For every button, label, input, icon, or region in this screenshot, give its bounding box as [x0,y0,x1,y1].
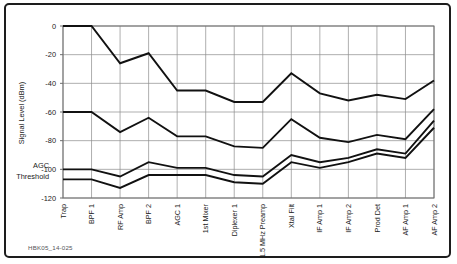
agc-threshold-label-line1: AGC [33,161,50,170]
grid-lines [63,26,434,198]
x-category-label: Prod Det [373,204,382,232]
signal-level-line-chart: 0-20-40-60-80-100-120 TrapBPF 1RF AmpBPF… [6,5,453,260]
data-series-line [63,128,434,188]
y-tick-label: -60 [45,108,56,117]
chart-area: 0-20-40-60-80-100-120 TrapBPF 1RF AmpBPF… [6,5,453,260]
x-category-label: 1st Mixer [201,203,210,233]
y-tick-label: -20 [45,50,56,59]
figure-caption: HBK05_14-025 [28,244,73,251]
x-category-label: Xtal Filt [287,204,296,228]
x-category-label: 1.5 MHz Preamp [258,204,267,258]
x-category-label: AF Amp 1 [401,204,410,236]
y-tick-label: -120 [41,194,56,203]
y-tick-label: -80 [45,136,56,145]
data-series-line [63,26,434,102]
y-axis-title: Signal Level (dBm) [17,82,26,144]
data-series-lines [63,26,434,188]
x-category-label: Diplexer 1 [230,204,239,236]
x-category-label: Trap [59,204,68,219]
x-category-label: BPF 1 [87,204,96,224]
data-series-line [63,121,434,177]
x-category-label: IF Amp 2 [344,204,353,233]
x-axis-category-labels: TrapBPF 1RF AmpBPF 2AGC 11st MixerDiplex… [59,203,439,258]
x-category-label: AF Amp 2 [430,204,439,236]
data-series-line [63,109,434,148]
figure-frame: 0-20-40-60-80-100-120 TrapBPF 1RF AmpBPF… [4,3,451,258]
y-tick-label: -40 [45,79,56,88]
x-category-label: IF Amp 1 [315,204,324,233]
y-tick-label: 0 [52,22,56,31]
x-category-label: AGC 1 [173,204,182,226]
x-category-label: RF Amp [116,204,125,230]
x-category-label: BPF 2 [144,204,153,224]
agc-threshold-label-line2: Threshold [16,172,49,181]
